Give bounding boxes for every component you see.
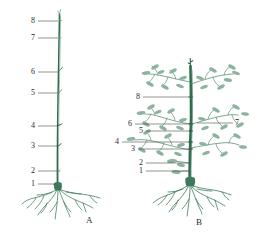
plant-b-root-crown [185,177,195,187]
leader-lines-a [38,21,58,184]
plant-illustration-layer [0,0,264,236]
callout-number-a-7: 7 [31,34,35,42]
callout-number-a-5: 5 [31,89,35,97]
panel-letter-b: B [196,218,202,227]
plant-b [126,58,249,216]
plant-b-leaves-lower-right [199,132,247,157]
plant-b-apex [188,58,193,66]
plant-a-apex [58,9,61,14]
callout-number-b-7: 7 [235,119,239,127]
plant-b-leaves-lower-left [126,128,185,157]
callout-number-a-6: 6 [31,68,35,76]
callout-number-a-1: 1 [31,180,35,188]
plant-b-roots [153,186,231,216]
callout-number-b-8: 8 [136,93,140,101]
plant-b-leaves-mid-right [198,103,249,131]
panel-letter-a: A [86,216,93,225]
callout-number-a-2: 2 [31,167,35,175]
callout-number-b-3: 3 [131,145,135,153]
plant-b-basal-leaves [167,158,189,174]
plant-b-leaves-upper-left [141,63,187,90]
callout-number-a-8: 8 [31,17,35,25]
callout-number-b-1: 1 [139,167,143,175]
callout-number-b-6: 6 [128,120,132,128]
plant-a-root-crown [54,182,62,190]
plant-b-branch-lower-right [191,136,239,153]
botanical-figure: 8 7 6 5 4 3 2 1 8 7 6 5 4 3 2 1 A B [0,0,264,236]
callout-number-a-4: 4 [31,122,35,130]
callout-number-b-4: 4 [115,138,119,146]
callout-number-b-5: 5 [139,127,143,135]
plant-b-leaves-upper-right [196,63,241,90]
callout-number-a-3: 3 [31,142,35,150]
